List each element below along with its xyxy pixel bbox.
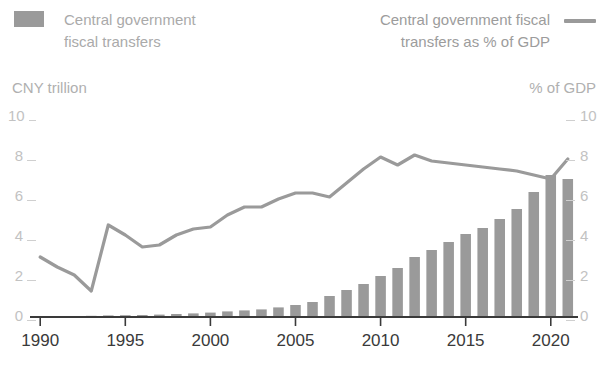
bar <box>358 284 369 317</box>
x-tick-label: 2020 <box>532 331 570 351</box>
left-tick-dash <box>27 320 36 321</box>
bar <box>426 250 437 317</box>
right-tick-label: 6 <box>566 187 600 204</box>
right-tick-label: 10 <box>566 107 600 124</box>
bar <box>409 257 420 317</box>
bar <box>392 268 403 317</box>
bar <box>307 302 318 317</box>
chart-canvas <box>0 0 608 376</box>
right-tick-dash <box>566 240 575 241</box>
bar <box>290 305 301 317</box>
right-tick-text: 6 <box>580 187 588 204</box>
right-tick-text: 2 <box>580 267 588 284</box>
right-tick-dash <box>566 320 575 321</box>
x-tick-label: 1995 <box>106 331 144 351</box>
left-tick-label: 10 <box>8 107 36 124</box>
left-tick-dash <box>29 120 36 121</box>
right-tick-dash <box>566 280 575 281</box>
bar <box>528 192 539 317</box>
right-tick-dash <box>566 160 575 161</box>
left-tick-label: 0 <box>8 307 36 324</box>
line-path <box>40 155 568 291</box>
plot-area <box>0 0 608 376</box>
right-tick-text: 10 <box>580 107 597 124</box>
bar <box>256 309 267 317</box>
right-tick-dash <box>566 200 575 201</box>
left-tick-dash <box>27 200 36 201</box>
x-tick-label: 2005 <box>277 331 315 351</box>
right-tick-text: 8 <box>580 147 588 164</box>
x-tick-label: 2015 <box>447 331 485 351</box>
line-series <box>40 155 568 291</box>
x-tick-label: 1990 <box>21 331 59 351</box>
left-tick-dash <box>27 240 36 241</box>
left-tick-text: 0 <box>15 307 23 324</box>
bar <box>511 209 522 317</box>
x-axis <box>30 317 578 326</box>
right-tick-label: 2 <box>566 267 600 284</box>
bar <box>341 290 352 317</box>
right-tick-label: 8 <box>566 147 600 164</box>
right-tick-label: 0 <box>566 307 600 324</box>
x-tick-label: 2000 <box>191 331 229 351</box>
bar <box>273 307 284 317</box>
bar <box>477 228 488 317</box>
bar <box>375 276 386 317</box>
bar <box>324 296 335 317</box>
left-tick-text: 8 <box>15 147 23 164</box>
left-tick-label: 2 <box>8 267 36 284</box>
left-tick-label: 8 <box>8 147 36 164</box>
chart-figure: Central government fiscal transfers Cent… <box>0 0 608 376</box>
right-tick-text: 4 <box>580 227 588 244</box>
bar <box>443 242 454 317</box>
left-tick-text: 10 <box>8 107 25 124</box>
right-tick-label: 4 <box>566 227 600 244</box>
right-tick-text: 0 <box>580 307 588 324</box>
x-tick-label: 2010 <box>362 331 400 351</box>
bar <box>545 175 556 317</box>
right-tick-dash <box>566 120 575 121</box>
left-tick-label: 4 <box>8 227 36 244</box>
left-tick-text: 4 <box>15 227 23 244</box>
left-tick-dash <box>27 280 36 281</box>
left-tick-text: 6 <box>15 187 23 204</box>
bar <box>460 234 471 317</box>
left-tick-text: 2 <box>15 267 23 284</box>
left-tick-dash <box>27 160 36 161</box>
left-tick-label: 6 <box>8 187 36 204</box>
bar <box>494 219 505 317</box>
bar-series <box>35 175 573 317</box>
x-axis-ticks <box>40 317 551 326</box>
